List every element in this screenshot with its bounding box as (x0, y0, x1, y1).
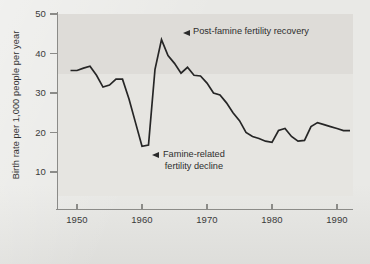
series-line-birth-rate (71, 40, 351, 147)
annotation-decline-line1: Famine-related (163, 149, 225, 161)
series-plot-area (0, 0, 370, 264)
annotation-recovery-label: Post-famine fertility recovery (193, 26, 309, 38)
annotation-arrow-recovery (183, 30, 190, 36)
annotation-decline-line2: fertility decline (163, 161, 225, 173)
annotation-arrow-decline (152, 152, 159, 158)
annotation-decline-label: Famine-related fertility decline (163, 149, 225, 172)
chart-figure: 5040302010 19501960197019801990 Birth ra… (0, 0, 370, 264)
